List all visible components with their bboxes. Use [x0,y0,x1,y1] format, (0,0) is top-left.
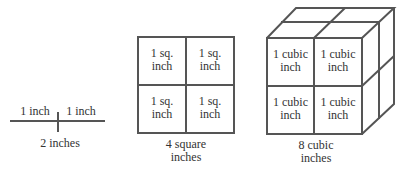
square-cell: 1 sq.inch [138,95,186,121]
segment-label-right: 1 inch [58,105,104,118]
line-caption: 2 inches [20,137,100,150]
cube-cell: 1 cubicinch [267,48,314,74]
square-cell: 1 sq.inch [186,47,234,73]
square-caption: 4 squareinches [146,138,226,164]
cube-cell: 1 cubicinch [314,96,362,122]
segment-label-left: 1 inch [12,105,58,118]
cube-caption: 8 cubicinches [276,139,356,165]
cube-cell: 1 cubicinch [267,96,314,122]
square-cell: 1 sq.inch [138,47,186,73]
square-cell: 1 sq.inch [186,95,234,121]
cube-cell: 1 cubicinch [314,48,362,74]
